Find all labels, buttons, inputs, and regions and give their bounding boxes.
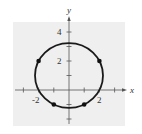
point-neg1-neg1: [52, 102, 57, 107]
point-1-neg1: [82, 102, 87, 107]
x-tick-label-neg2: -2: [32, 95, 40, 105]
x-tick-label-2: 2: [97, 95, 102, 105]
point-neg2-2: [36, 59, 41, 64]
graph: x y -2 2 2 4: [0, 0, 142, 134]
point-2-2: [97, 59, 102, 64]
y-axis-label: y: [66, 5, 71, 15]
y-tick-label-2: 2: [57, 56, 62, 66]
y-axis-arrow-icon: [67, 16, 70, 21]
x-axis-label: x: [129, 85, 134, 95]
y-tick-label-4: 4: [57, 27, 62, 37]
